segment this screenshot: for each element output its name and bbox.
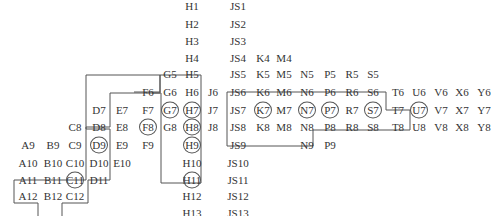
circle-marker-c11 [66, 172, 84, 189]
circle-marker-h7 [183, 102, 201, 119]
cell-js2: JS2 [230, 18, 246, 30]
cell-j8: J8 [208, 121, 218, 133]
circle-marker-h9 [183, 137, 201, 154]
cell-js1: JS1 [230, 0, 246, 12]
cell-p8: P8 [324, 121, 336, 133]
circle-marker-d9 [90, 137, 108, 154]
cell-r6: R6 [346, 86, 359, 98]
cell-u6: U6 [412, 86, 425, 98]
cell-js8: JS8 [230, 121, 246, 133]
cell-h4: H4 [185, 52, 198, 64]
cell-c10: C10 [66, 157, 84, 169]
circle-marker-f8 [139, 119, 157, 136]
cell-js10: JS10 [227, 157, 248, 169]
cell-js4: JS4 [230, 52, 246, 64]
cell-x7: X7 [455, 104, 468, 116]
cell-b10: B10 [44, 157, 62, 169]
circle-marker-n7 [298, 102, 316, 119]
grid-diagram: H1JS1H2JS2H3JS3H4JS4K4M4G5H5JS5K5M5N5P5R… [0, 0, 491, 216]
cell-h2: H2 [185, 18, 198, 30]
cell-y6: Y6 [477, 86, 490, 98]
cell-c12: C12 [66, 190, 84, 202]
cell-e10: E10 [113, 157, 131, 169]
cell-t6: T6 [392, 86, 404, 98]
cell-h3: H3 [185, 35, 198, 47]
cell-g8: G8 [163, 121, 176, 133]
cell-r8: R8 [346, 121, 359, 133]
circle-marker-g7 [161, 102, 179, 119]
cell-d10: D10 [90, 157, 109, 169]
cell-b9: B9 [47, 139, 60, 151]
cell-y7: Y7 [477, 104, 490, 116]
cell-n5: N5 [300, 68, 313, 80]
cell-k8: K8 [256, 121, 269, 133]
circle-marker-k7 [254, 102, 272, 119]
cell-e9: E9 [116, 139, 128, 151]
cell-y8: Y8 [477, 121, 490, 133]
cell-m7: M7 [276, 104, 291, 116]
cell-k6: K6 [256, 86, 269, 98]
cell-n8: N8 [300, 121, 313, 133]
cell-t7: T7 [392, 104, 404, 116]
cell-h10: H10 [183, 157, 202, 169]
cell-x6: X6 [455, 86, 468, 98]
cell-js11: JS11 [228, 174, 249, 186]
cell-k5: K5 [256, 68, 269, 80]
circle-marker-h11 [183, 172, 201, 189]
cell-m5: M5 [276, 68, 291, 80]
cell-h12: H12 [183, 190, 202, 202]
cell-r7: R7 [346, 104, 359, 116]
cell-m8: M8 [276, 121, 291, 133]
circle-marker-h8 [183, 119, 201, 136]
cell-d8: D8 [92, 121, 105, 133]
cell-f7: F7 [142, 104, 154, 116]
cell-a11: A11 [19, 174, 38, 186]
cell-s5: S5 [367, 68, 379, 80]
cell-u8: U8 [412, 121, 425, 133]
cell-s8: S8 [367, 121, 379, 133]
cell-v6: V6 [434, 86, 447, 98]
cell-r5: R5 [346, 68, 359, 80]
cell-c8: C8 [69, 121, 82, 133]
cell-g6: G6 [163, 86, 176, 98]
cell-p9: P9 [324, 139, 336, 151]
cell-a9: A9 [21, 139, 34, 151]
cell-a12: A12 [19, 190, 38, 202]
cell-b11: B11 [44, 174, 62, 186]
cell-k4: K4 [256, 52, 269, 64]
cell-f9: F9 [142, 139, 154, 151]
cell-b12: B12 [44, 190, 62, 202]
circle-marker-p7 [321, 102, 339, 119]
cell-s6: S6 [367, 86, 379, 98]
cell-js13: JS13 [227, 207, 248, 216]
cell-js5: JS5 [230, 68, 246, 80]
circle-marker-s7 [364, 102, 382, 119]
cell-c9: C9 [69, 139, 82, 151]
cell-j6: J6 [208, 86, 218, 98]
cell-js12: JS12 [227, 190, 248, 202]
cell-f6: F6 [142, 86, 154, 98]
cell-h5: H5 [185, 68, 198, 80]
cell-v8: V8 [434, 121, 447, 133]
cell-x8: X8 [455, 121, 468, 133]
cell-j7: J7 [208, 104, 218, 116]
cell-n6: N6 [300, 86, 313, 98]
cell-v7: V7 [434, 104, 447, 116]
cell-js6: JS6 [230, 86, 246, 98]
cell-d7: D7 [92, 104, 105, 116]
cell-m6: M6 [276, 86, 291, 98]
cell-m4: M4 [276, 52, 291, 64]
cell-p5: P5 [324, 68, 336, 80]
cell-e7: E7 [116, 104, 128, 116]
outline-right-band [227, 92, 410, 146]
cell-p6: P6 [324, 86, 336, 98]
cell-h6: H6 [185, 86, 198, 98]
cell-js9: JS9 [230, 139, 246, 151]
cell-n9: N9 [300, 139, 313, 151]
cell-h13: H13 [183, 207, 202, 216]
cell-e8: E8 [116, 121, 128, 133]
circle-marker-u7 [410, 102, 428, 119]
cell-d11: D11 [90, 174, 109, 186]
cell-js3: JS3 [230, 35, 246, 47]
cell-t8: T8 [392, 121, 404, 133]
